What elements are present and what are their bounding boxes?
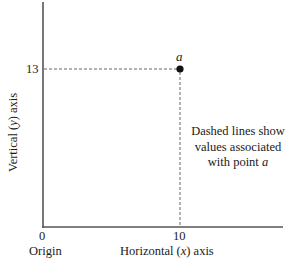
- annotation-line-1: Dashed lines show: [190, 124, 286, 140]
- point-a-label: a: [176, 50, 183, 64]
- x-tick-label: 10: [173, 229, 186, 243]
- annotation-line-2: values associated: [190, 140, 286, 156]
- origin-label: Origin: [29, 244, 62, 258]
- annotation-line-3: with point a: [190, 155, 286, 171]
- point-a-marker: [176, 65, 183, 72]
- y-axis-title: Vertical (y) axis: [6, 93, 21, 172]
- annotation-note: Dashed lines show values associated with…: [190, 124, 286, 171]
- origin-value-label: 0: [39, 229, 45, 243]
- x-axis-title: Horizontal (x) axis: [120, 244, 214, 258]
- y-tick-label: 13: [26, 62, 39, 76]
